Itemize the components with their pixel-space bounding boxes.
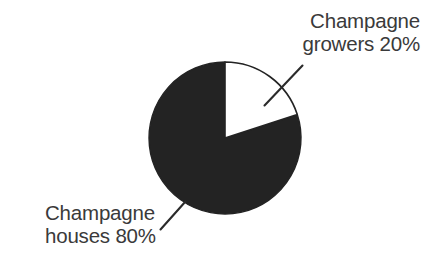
- label-champagne-growers-line1: Champagne: [303, 9, 420, 32]
- label-champagne-houses-line2: houses 80%: [45, 224, 156, 247]
- leader-line-houses: [161, 202, 186, 230]
- pie-chart-figure: Champagne growers 20% Champagne houses 8…: [0, 0, 426, 274]
- label-champagne-houses: Champagne houses 80%: [45, 201, 156, 247]
- label-champagne-growers: Champagne growers 20%: [303, 9, 420, 55]
- label-champagne-growers-line2: growers 20%: [303, 32, 420, 55]
- label-champagne-houses-line1: Champagne: [45, 201, 156, 224]
